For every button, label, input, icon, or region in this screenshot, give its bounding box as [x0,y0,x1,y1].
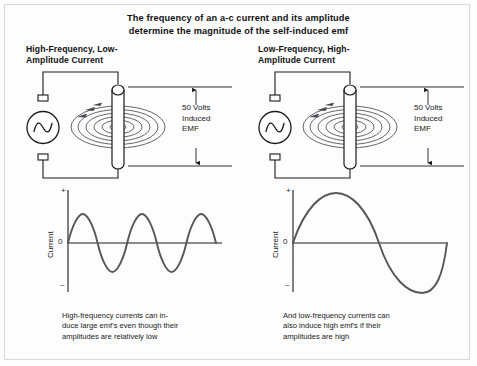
emf-label-right: 50 Volts Induced EMF [414,103,474,135]
waveform-graph-left [68,190,222,292]
caption-right: And low-frequency currents can also indu… [283,311,438,342]
caption-right-line-3: amplitudes are high [283,332,438,342]
emf-left-line-3: EMF [182,124,242,135]
tick-zero-right: 0 [283,237,287,246]
caption-left: High-frequency currents can in- duce lar… [62,311,214,342]
y-axis-label-right: Current [271,231,280,258]
conductor-rod-right [344,85,356,169]
emf-right-line-3: EMF [414,124,474,135]
tick-minus-left: – [60,280,64,289]
tick-zero-left: 0 [58,237,62,246]
tick-minus-right: – [285,280,289,289]
caption-left-line-3: amplitudes are relatively low [62,332,214,342]
tick-plus-right: + [286,186,291,195]
ac-generator-left [27,95,59,160]
waveform-graph-right [293,190,447,293]
conductor-rod-left [112,85,124,169]
y-axis-label-left: Current [46,231,55,258]
tick-plus-left: + [61,186,66,195]
caption-right-line-1: And low-frequency currents can [283,311,438,321]
ac-generator-right [259,95,291,160]
emf-left-line-2: Induced [182,114,242,125]
emf-right-line-2: Induced [414,114,474,125]
emf-left-line-1: 50 Volts [182,103,242,114]
emf-label-left: 50 Volts Induced EMF [182,103,242,135]
diagram-page: The frequency of an a-c current and its … [0,0,477,366]
caption-left-line-1: High-frequency currents can in- [62,311,214,321]
caption-left-line-2: duce large emf's even though their [62,321,214,331]
emf-right-line-1: 50 Volts [414,103,474,114]
caption-right-line-2: also induce high emf's if their [283,321,438,331]
